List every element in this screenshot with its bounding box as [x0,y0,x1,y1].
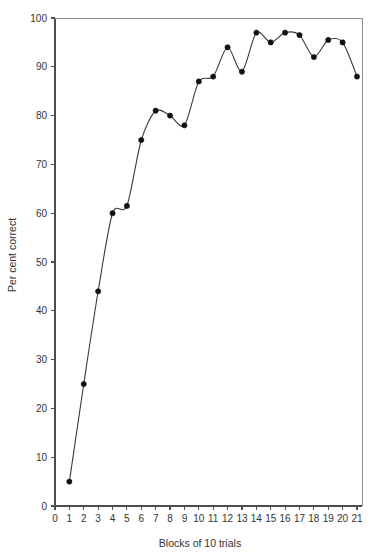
y-tick-label: 70 [36,159,48,170]
data-point-marker [96,289,101,294]
x-tick-label: 0 [52,513,58,524]
x-tick-label: 15 [265,513,277,524]
x-tick-label: 13 [236,513,248,524]
x-tick-label: 21 [351,513,363,524]
data-point-marker [354,74,359,79]
y-tick-label: 60 [36,208,48,219]
x-tick-label: 11 [208,513,219,524]
x-tick-label: 17 [294,513,306,524]
x-tick-label: 16 [280,513,292,524]
x-tick-label: 5 [124,513,130,524]
y-tick-label: 100 [30,13,47,24]
data-point-marker [67,479,72,484]
x-tick-label: 14 [251,513,263,524]
data-point-marker [167,113,172,118]
series-line [69,32,357,482]
y-tick-label: 20 [36,403,48,414]
x-tick-label: 3 [95,513,101,524]
y-axis-ticks: 0102030405060708090100 [30,13,55,512]
y-tick-label: 0 [41,501,47,512]
data-point-marker [254,30,259,35]
x-tick-label: 8 [167,513,173,524]
x-axis-ticks: 0123456789101112131415161718192021 [52,506,363,524]
data-point-marker [182,123,187,128]
x-tick-label: 19 [323,513,335,524]
data-point-marker [211,74,216,79]
x-tick-label: 12 [222,513,234,524]
data-point-marker [268,40,273,45]
data-point-marker [297,32,302,37]
x-tick-label: 9 [182,513,188,524]
data-point-marker [139,137,144,142]
data-point-marker [283,30,288,35]
data-point-marker [340,40,345,45]
data-point-marker [326,37,331,42]
x-tick-label: 6 [139,513,145,524]
data-series [69,32,357,482]
x-tick-label: 18 [308,513,320,524]
data-point-marker [311,54,316,59]
data-point-marker [81,381,86,386]
data-point-marker [225,45,230,50]
plot-frame [55,18,362,506]
data-point-marker [153,108,158,113]
plot-area: 0102030405060708090100 01234567891011121… [0,0,378,557]
y-tick-label: 40 [36,305,48,316]
learning-curve-chart: 0102030405060708090100 01234567891011121… [0,0,378,557]
y-tick-label: 30 [36,354,48,365]
data-point-marker [124,203,129,208]
y-axis-title: Per cent correct [6,218,18,292]
data-point-marker [239,69,244,74]
data-markers [67,30,360,484]
x-tick-label: 4 [110,513,116,524]
data-point-marker [110,211,115,216]
data-point-marker [196,79,201,84]
x-tick-label: 10 [193,513,205,524]
x-tick-label: 1 [67,513,73,524]
y-tick-label: 10 [36,452,48,463]
x-tick-label: 2 [81,513,87,524]
y-tick-label: 50 [36,257,48,268]
x-axis-title: Blocks of 10 trials [159,537,241,549]
x-tick-label: 20 [337,513,349,524]
x-tick-label: 7 [153,513,159,524]
y-tick-label: 80 [36,110,48,121]
y-tick-label: 90 [36,61,48,72]
